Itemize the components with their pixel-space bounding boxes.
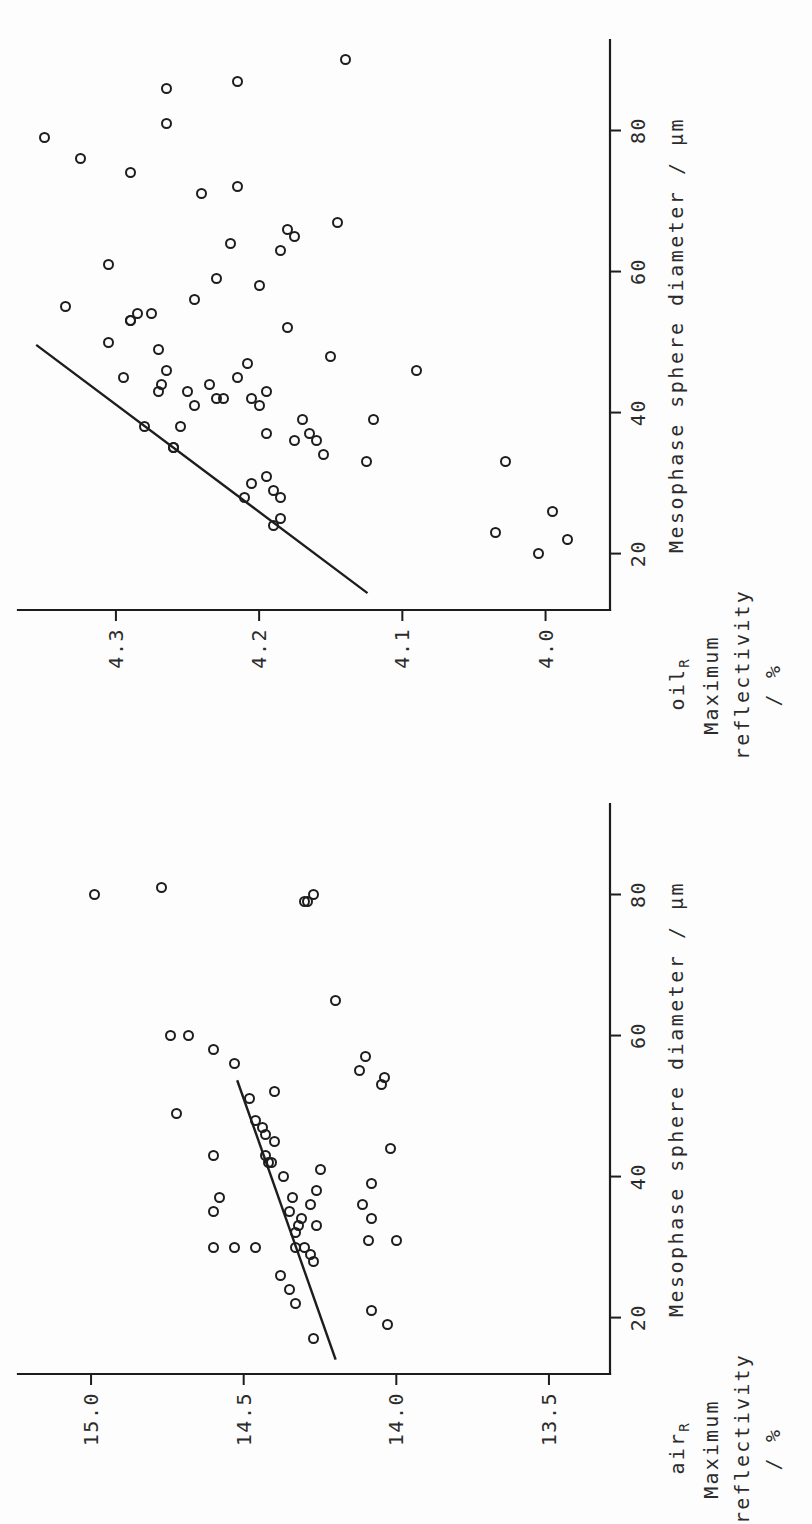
- y-axis-title-air-line2: Maximum: [696, 1374, 727, 1524]
- data-point: [250, 1115, 261, 1126]
- y-axis-title-air-symbol: air: [665, 1432, 689, 1475]
- x-tick-label: 40: [626, 1163, 650, 1190]
- y-axis-title-air-subscript: R: [676, 1423, 692, 1431]
- plot-area-air: 13.514.014.515.020406080 Mesophase spher…: [0, 784, 760, 1524]
- data-point: [182, 386, 193, 397]
- data-point: [385, 1143, 396, 1154]
- data-point: [229, 1242, 240, 1253]
- y-axis-title-air-line3: reflectivity: [727, 1374, 758, 1524]
- data-point: [161, 118, 172, 129]
- data-point: [161, 365, 172, 376]
- y-axis-title-oil: oilR Maximum reflectivity / %: [662, 610, 789, 760]
- data-point: [261, 428, 272, 439]
- data-point: [260, 1150, 271, 1161]
- data-point: [211, 393, 222, 404]
- y-axis-title-air: airR Maximum reflectivity / %: [662, 1374, 789, 1524]
- data-point: [225, 238, 236, 249]
- data-point: [75, 153, 86, 164]
- figure-page: 4.04.14.24.320406080 Mesophase sphere di…: [0, 0, 812, 1524]
- chart-air-reflectivity: 13.514.014.515.020406080 Mesophase spher…: [0, 784, 760, 1524]
- data-point: [232, 76, 243, 87]
- data-point: [282, 224, 293, 235]
- y-tick-label: 4.0: [534, 628, 558, 669]
- data-point: [232, 372, 243, 383]
- x-tick-label: 20: [626, 1304, 650, 1331]
- data-point: [103, 337, 114, 348]
- data-point: [269, 1136, 280, 1147]
- x-tick-label: 40: [626, 399, 650, 426]
- data-point: [165, 1030, 176, 1041]
- data-point: [547, 506, 558, 517]
- y-axis-title-oil-line2: Maximum: [696, 610, 727, 760]
- data-point: [275, 1270, 286, 1281]
- data-point: [275, 513, 286, 524]
- data-point: [156, 882, 167, 893]
- x-axis-title-air: Mesophase sphere diameter / µm: [664, 881, 688, 1317]
- x-tick-label: 60: [626, 258, 650, 285]
- data-point: [208, 1044, 219, 1055]
- data-point: [175, 421, 186, 432]
- data-point: [208, 1150, 219, 1161]
- x-tick-label: 60: [626, 1022, 650, 1049]
- data-point: [391, 1235, 402, 1246]
- y-tick-label: 4.3: [104, 628, 128, 669]
- data-point: [411, 365, 422, 376]
- data-point: [330, 995, 341, 1006]
- y-axis-title-oil-line1: oilR: [662, 610, 696, 760]
- data-point: [254, 280, 265, 291]
- data-point: [239, 492, 250, 503]
- data-point: [284, 1284, 295, 1295]
- data-point: [275, 245, 286, 256]
- y-tick-label: 4.2: [247, 628, 271, 669]
- data-point: [533, 548, 544, 559]
- y-axis-title-air-line1: airR: [662, 1374, 696, 1524]
- y-tick-label: 15.0: [79, 1392, 103, 1446]
- y-axis-title-air-line4: / %: [758, 1374, 789, 1524]
- data-point: [290, 1242, 301, 1253]
- data-point: [118, 372, 129, 383]
- data-point: [89, 889, 100, 900]
- data-point: [379, 1072, 390, 1083]
- data-point: [325, 351, 336, 362]
- data-point: [297, 414, 308, 425]
- data-point: [204, 379, 215, 390]
- data-point: [382, 1319, 393, 1330]
- y-tick-label: 4.1: [390, 628, 414, 669]
- x-axis-title-oil: Mesophase sphere diameter / µm: [664, 117, 688, 553]
- y-axis-title-oil-line3: reflectivity: [727, 610, 758, 760]
- data-point: [261, 471, 272, 482]
- data-point: [208, 1242, 219, 1253]
- data-point: [242, 358, 253, 369]
- data-point: [250, 1242, 261, 1253]
- plot-area-oil: 4.04.14.24.320406080 Mesophase sphere di…: [0, 20, 760, 760]
- data-point: [171, 1108, 182, 1119]
- data-point: [290, 1298, 301, 1309]
- data-point: [125, 167, 136, 178]
- y-axis-title-oil-subscript: R: [676, 659, 692, 667]
- y-tick-label: 14.5: [232, 1392, 256, 1446]
- x-tick-label: 80: [626, 117, 650, 144]
- data-point: [208, 1206, 219, 1217]
- y-tick-label: 13.5: [537, 1392, 561, 1446]
- data-point: [278, 1171, 289, 1182]
- data-point: [261, 386, 272, 397]
- data-point: [211, 273, 222, 284]
- chart-oil-reflectivity: 4.04.14.24.320406080 Mesophase sphere di…: [0, 20, 760, 760]
- data-point: [161, 83, 172, 94]
- y-axis-title-oil-line4: / %: [758, 610, 789, 760]
- data-point: [153, 344, 164, 355]
- data-point: [168, 442, 179, 453]
- data-point: [490, 527, 501, 538]
- data-point: [214, 1192, 225, 1203]
- x-tick-label: 20: [626, 540, 650, 567]
- x-tick-label: 80: [626, 881, 650, 908]
- data-point: [315, 1164, 326, 1175]
- y-tick-label: 14.0: [384, 1392, 408, 1446]
- data-point: [268, 485, 279, 496]
- y-axis-title-oil-symbol: oil: [665, 668, 689, 711]
- data-point: [363, 1235, 374, 1246]
- data-point: [562, 534, 573, 545]
- data-point: [39, 132, 50, 143]
- data-point: [304, 428, 315, 439]
